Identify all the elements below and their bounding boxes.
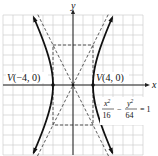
equation: x2 16 − y2 64 = 1 [100,97,158,125]
vertex-left-coords: (−4, 0) [13,72,40,84]
vertex-point [91,83,95,87]
vertex-right-coords: (4, 0) [102,72,124,84]
vertex-label-left: V(−4, 0) [6,72,48,84]
eq-minus: − [117,105,122,114]
branch-arrowhead-icon [108,16,113,23]
vertex-label-right: V(4, 0) [96,72,129,84]
eq-equals-one: = 1 [140,105,151,114]
vertex-point [51,83,55,87]
eq-term1-denominator: 16 [103,111,111,120]
branch-arrowhead-icon [33,148,38,155]
x-axis-label: x [151,79,157,90]
eq-term2-denominator: 64 [126,111,134,120]
branch-arrowhead-icon [108,148,113,155]
y-axis-label: y [70,0,76,11]
svg-text:V(4, 0): V(4, 0) [96,72,124,84]
svg-text:V(−4, 0): V(−4, 0) [7,72,40,84]
branch-arrowhead-icon [33,16,38,23]
x-axis-arrow-icon [145,83,150,87]
center-point [72,84,75,87]
hyperbola-graph: x y V(−4, 0) V(4, 0) x2 16 − y2 64 = 1 [0,0,158,156]
